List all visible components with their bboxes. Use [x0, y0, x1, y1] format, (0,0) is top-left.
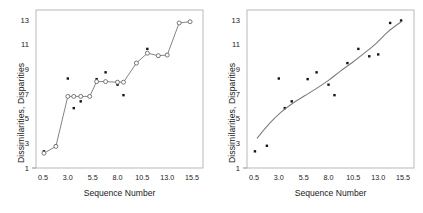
left-y-tick-label: 1 — [25, 164, 29, 173]
left-disparity-marker — [177, 21, 181, 25]
right-data-point — [333, 94, 335, 96]
right-x-axis-title: Sequence Number — [247, 188, 414, 198]
right-data-point — [346, 62, 348, 64]
left-disparity-marker — [134, 61, 138, 65]
left-disparity-marker — [72, 94, 76, 98]
right-data-point — [254, 150, 256, 152]
right-data-point — [315, 71, 317, 73]
left-x-tick-label: 13.0 — [160, 173, 174, 182]
right-x-tick-label: 5.5 — [299, 173, 309, 182]
right-data-point — [368, 55, 370, 57]
left-disparity-marker — [188, 20, 192, 24]
figure-container: 0.53.05.58.010.513.015.5135791113 Dissim… — [0, 0, 423, 213]
right-x-tick-label: 10.5 — [346, 173, 360, 182]
right-x-tick-label: 13.0 — [371, 173, 385, 182]
right-x-tick-label: 8.0 — [324, 173, 334, 182]
left-disparity-marker — [104, 80, 108, 84]
left-x-tick-label: 3.0 — [63, 173, 73, 182]
right-data-point — [291, 100, 293, 102]
left-data-point — [67, 77, 69, 79]
left-disparity-marker — [165, 53, 169, 57]
left-data-point — [80, 100, 82, 102]
left-plot-svg: 0.53.05.58.010.513.015.5135791113 — [0, 0, 211, 213]
right-data-point — [266, 145, 268, 147]
left-data-point — [146, 48, 148, 50]
left-x-tick-label: 5.5 — [88, 173, 98, 182]
left-data-point — [104, 71, 106, 73]
left-x-tick-label: 8.0 — [113, 173, 123, 182]
right-x-tick-label: 3.0 — [274, 173, 284, 182]
left-disparity-marker — [156, 54, 160, 58]
left-y-tick-label: 11 — [21, 40, 29, 49]
left-x-tick-label: 0.5 — [38, 173, 48, 182]
right-x-tick-label: 0.5 — [249, 173, 259, 182]
left-monotone-fit-line — [44, 22, 190, 153]
chart-panel-right: 0.53.05.58.010.513.015.5135791113 Dissim… — [211, 0, 422, 213]
left-y-axis-title: Dissimilarities, Disparities — [16, 63, 26, 163]
left-disparity-marker — [54, 144, 58, 148]
right-y-tick-label: 13 — [232, 16, 240, 25]
right-data-point — [327, 83, 329, 85]
left-x-axis-title: Sequence Number — [36, 188, 203, 198]
right-y-tick-label: 11 — [232, 40, 240, 49]
right-smooth-fit-curve — [257, 22, 401, 139]
right-y-axis-title: Dissimilarities, Disparities — [227, 63, 237, 163]
right-data-point — [377, 53, 379, 55]
left-data-point — [122, 94, 124, 96]
right-y-tick-label: 1 — [236, 164, 240, 173]
left-x-tick-label: 15.5 — [185, 173, 199, 182]
left-disparity-marker — [88, 94, 92, 98]
left-disparity-marker — [42, 151, 46, 155]
right-plot-svg: 0.53.05.58.010.513.015.5135791113 — [211, 0, 423, 213]
left-data-point — [73, 107, 75, 109]
left-disparity-marker — [66, 94, 70, 98]
left-disparity-marker — [116, 80, 120, 84]
left-disparity-marker — [121, 80, 125, 84]
left-disparity-marker — [95, 80, 99, 84]
left-disparity-marker — [145, 51, 149, 55]
right-data-point — [389, 22, 391, 24]
right-data-point — [400, 19, 402, 21]
left-y-tick-label: 13 — [21, 16, 29, 25]
right-x-tick-label: 15.5 — [396, 173, 410, 182]
right-data-point — [306, 78, 308, 80]
left-disparity-marker — [79, 94, 83, 98]
right-data-point — [278, 77, 280, 79]
right-data-point — [357, 48, 359, 50]
chart-panel-left: 0.53.05.58.010.513.015.5135791113 Dissim… — [0, 0, 211, 213]
left-x-tick-label: 10.5 — [135, 173, 149, 182]
